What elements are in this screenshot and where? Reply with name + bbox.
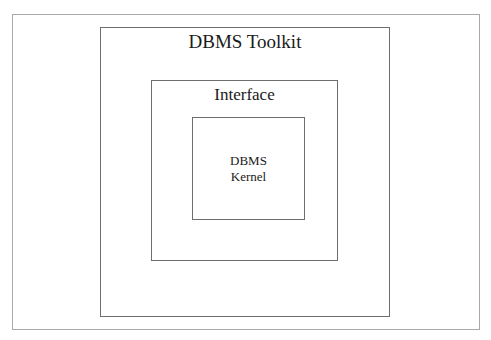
dbms-kernel-label-line-2: Kernel xyxy=(192,169,305,185)
dbms-kernel-label: DBMS Kernel xyxy=(192,153,305,185)
dbms-toolkit-label: DBMS Toolkit xyxy=(100,32,390,51)
dbms-kernel-label-line-1: DBMS xyxy=(192,153,305,169)
interface-label: Interface xyxy=(151,86,338,103)
